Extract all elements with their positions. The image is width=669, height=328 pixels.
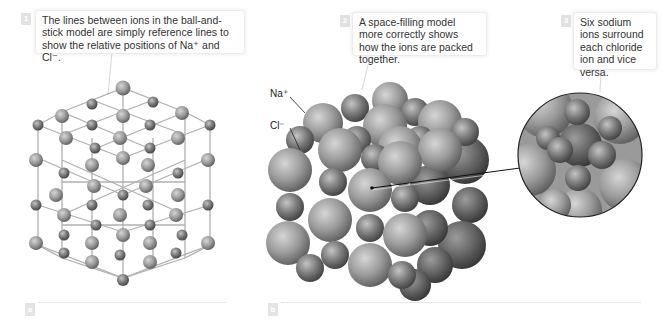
panel-a-rule — [38, 302, 226, 303]
magnified-inset — [504, 82, 651, 232]
panel-b-label: b — [268, 303, 278, 316]
panel-a-label: a — [25, 303, 35, 316]
ball-and-stick-model — [29, 81, 216, 287]
callout-1-leader — [108, 52, 112, 95]
panel-b-rule — [281, 302, 641, 303]
callout-3: Six sodium ions surround each chloride i… — [573, 12, 657, 70]
callout-2-leader — [362, 65, 368, 90]
callout-2-number: 2 — [340, 15, 350, 27]
callout-1: The lines between ions in the ball-and-s… — [35, 10, 245, 54]
chloride-ion-label: Cl⁻ — [270, 120, 284, 131]
callout-3-number: 3 — [561, 15, 571, 27]
callout-1-number: 1 — [21, 13, 31, 25]
sodium-ion-label: Na⁺ — [270, 88, 288, 99]
callout-2: A space-filling model more correctly sho… — [352, 12, 487, 56]
space-filling-model — [266, 82, 520, 301]
